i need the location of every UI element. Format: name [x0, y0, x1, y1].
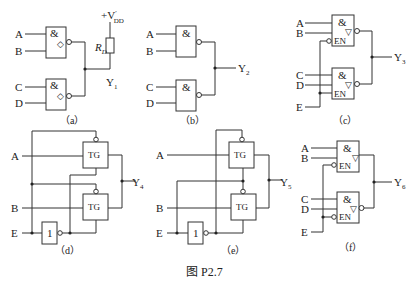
output-label-y6: Y6 [394, 176, 406, 191]
panel-caption: （c） [333, 115, 357, 126]
open-drain-icon: ◇ [57, 39, 64, 49]
and-symbol: & [182, 81, 191, 93]
and-symbol: & [343, 142, 352, 154]
panel-d: TG TG 1 A B E Y4 （d） [11, 131, 144, 256]
input-label-d: D [301, 203, 309, 215]
tg-label: TG [88, 202, 100, 212]
active-low-bubble-icon [332, 215, 337, 220]
panel-e: TG TG 1 A B E Y5 （e） [156, 130, 292, 256]
output-label-y5: Y5 [280, 176, 292, 191]
inverter-bubble-icon [197, 40, 202, 45]
junction-dot [30, 231, 33, 234]
junction-dot [214, 231, 217, 234]
panel-b: & & A B C D Y2 （b） [146, 26, 250, 126]
control-bubble-icon [241, 189, 246, 194]
open-drain-icon: ◇ [57, 91, 64, 101]
tg-label: TG [236, 202, 248, 212]
output-label-y3: Y3 [394, 51, 406, 66]
input-label-a: A [146, 28, 154, 40]
output-label-y2: Y2 [238, 62, 250, 77]
input-label-e: E [301, 226, 308, 238]
inverter-bubble-icon [355, 29, 360, 34]
active-low-bubble-icon [327, 39, 332, 44]
panel-c: & ▽ EN & ▽ EN A B C D E Y3 （c） [296, 15, 406, 126]
inverter-symbol: 1 [193, 227, 199, 239]
input-label-c: C [146, 81, 153, 93]
resistor-label: RD [94, 41, 107, 56]
inverter-bubble-icon [67, 40, 72, 45]
junction-dot [68, 231, 71, 234]
tristate-icon: ▽ [345, 80, 352, 90]
pullup-resistor [106, 38, 114, 53]
input-label-b: B [301, 152, 308, 164]
panel-f: & ▽ EN & ▽ EN A B C D E Y6 （f） [301, 141, 406, 253]
enable-label: EN [334, 36, 346, 46]
panel-a: & ◇ & ◇ A B C D +V′DD RD Y1 （a） [15, 9, 124, 126]
input-label-b: B [146, 45, 153, 57]
and-symbol: & [50, 79, 59, 91]
inverter-symbol: 1 [47, 227, 53, 239]
output-label-y1: Y1 [106, 76, 118, 91]
panel-caption: （e） [221, 245, 245, 256]
tg-label: TG [234, 150, 246, 160]
junction-dot [372, 180, 375, 183]
junction-dot [30, 182, 33, 185]
inverter-bubble-icon [197, 93, 202, 98]
input-label-e: E [11, 227, 18, 239]
and-symbol: & [50, 27, 59, 39]
input-label-a: A [156, 149, 164, 161]
input-label-c: C [15, 81, 22, 93]
circuit-figure: & ◇ & ◇ A B C D +V′DD RD Y1 （a） & [0, 0, 416, 288]
input-label-a: A [11, 150, 19, 162]
input-label-d: D [15, 97, 23, 109]
tristate-icon: ▽ [345, 27, 352, 37]
tg-label: TG [88, 150, 100, 160]
junction-dot [213, 66, 216, 69]
enable-label: EN [334, 89, 346, 99]
supply-label: +V′DD [101, 9, 124, 25]
input-label-b: B [11, 202, 18, 214]
enable-label: EN [339, 212, 351, 222]
input-label-b: B [15, 45, 22, 57]
inverter-bubble-icon [67, 94, 72, 99]
junction-dot [83, 67, 86, 70]
inverter-bubble-icon [58, 231, 63, 236]
junction-dot [120, 179, 123, 182]
junction-dot [370, 55, 373, 58]
panel-caption: （d） [55, 245, 80, 256]
input-label-d: D [296, 79, 304, 91]
input-label-d: D [146, 97, 154, 109]
panel-caption: （b） [180, 115, 205, 126]
inverter-bubble-icon [204, 231, 209, 236]
and-symbol: & [182, 27, 191, 39]
junction-dot [318, 91, 321, 94]
input-label-b: B [156, 202, 163, 214]
control-bubble-icon [94, 189, 99, 194]
figure-caption: 图 P2.7 [186, 265, 223, 279]
enable-label: EN [339, 161, 351, 171]
junction-dot [175, 231, 178, 234]
control-bubble-icon [94, 137, 99, 142]
inverter-bubble-icon [355, 82, 360, 87]
control-bubble-icon [240, 137, 245, 142]
junction-dot [267, 178, 270, 181]
junction-dot [241, 179, 244, 182]
tristate-icon: ▽ [350, 204, 357, 214]
input-label-b: B [296, 27, 303, 39]
panel-caption: （a） [60, 115, 84, 126]
tristate-icon: ▽ [352, 153, 359, 163]
junction-dot [321, 215, 324, 218]
inverter-bubble-icon [359, 206, 364, 211]
active-low-bubble-icon [332, 163, 337, 168]
input-label-a: A [15, 28, 23, 40]
output-label-y4: Y4 [132, 176, 144, 191]
input-label-e: E [296, 101, 303, 113]
input-label-e: E [156, 227, 163, 239]
panel-caption: （f） [339, 242, 362, 253]
